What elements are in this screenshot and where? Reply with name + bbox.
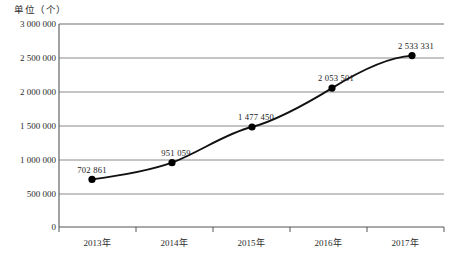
x-tick-label: 2017年 xyxy=(392,236,419,249)
x-axis-ticks xyxy=(59,227,444,232)
x-tick-label: 2014年 xyxy=(161,236,188,249)
data-point-label: 702 861 xyxy=(77,165,106,175)
gridlines xyxy=(59,24,444,194)
data-point-label: 2 053 501 xyxy=(318,73,354,83)
chart-canvas xyxy=(0,0,452,261)
data-point-label: 951 059 xyxy=(161,148,190,158)
data-point-label: 1 477 450 xyxy=(238,112,274,122)
x-tick-label: 2013年 xyxy=(84,236,111,249)
line-chart: 单位（个） 3 000 000 2 500 000 2 000 000 1 50… xyxy=(0,0,452,261)
data-point-label: 2 533 331 xyxy=(398,41,434,51)
x-tick-label: 2015年 xyxy=(238,236,265,249)
x-tick-label: 2016年 xyxy=(315,236,342,249)
